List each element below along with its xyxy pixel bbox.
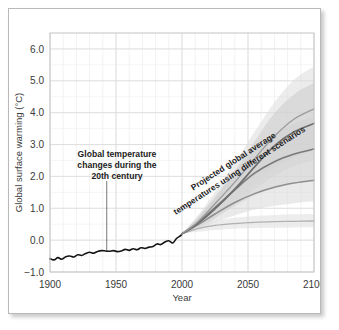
y-axis-title: Global surface warming (°C): [13, 93, 24, 212]
global-warming-chart: −1.00.01.02.03.04.05.06.0190019502000205…: [9, 9, 320, 313]
x-tick-label: 2000: [171, 279, 194, 290]
historical-annotation-line: 20th century: [91, 171, 142, 181]
y-tick-label: 4.0: [30, 107, 44, 118]
historical-annotation-line: changes during the: [77, 160, 156, 170]
y-tick-label: 5.0: [30, 75, 44, 86]
x-axis-title: Year: [172, 292, 191, 303]
y-tick-label: 0.0: [30, 235, 44, 246]
y-tick-label: 3.0: [30, 139, 44, 150]
figure-page: −1.00.01.02.03.04.05.06.0190019502000205…: [0, 0, 339, 330]
historical-annotation-line: Global temperature: [78, 149, 157, 159]
chart-figure-frame: −1.00.01.02.03.04.05.06.0190019502000205…: [8, 8, 321, 314]
x-tick-label: 1950: [105, 279, 128, 290]
x-tick-label: 2100: [303, 279, 320, 290]
y-tick-label: −1.0: [24, 267, 44, 278]
x-tick-label: 2050: [237, 279, 260, 290]
x-tick-label: 1900: [39, 279, 62, 290]
y-tick-label: 6.0: [30, 44, 44, 55]
y-tick-label: 2.0: [30, 171, 44, 182]
y-tick-label: 1.0: [30, 203, 44, 214]
